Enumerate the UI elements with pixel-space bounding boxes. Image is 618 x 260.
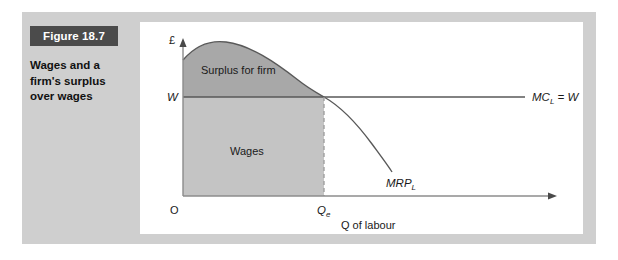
chart-canvas: £ W O Qe Q of labour Surplus for firm Wa…	[140, 22, 583, 234]
y-axis-wage-label: W	[167, 91, 179, 103]
figure-root: Figure 18.7 Wages and a firm's surplus o…	[0, 0, 618, 260]
figure-number-badge: Figure 18.7	[30, 26, 118, 46]
x-axis-equilibrium-label-base: Q	[317, 204, 326, 216]
figure-caption-line-1: Wages and a	[30, 58, 134, 74]
region-surplus-label: Surplus for firm	[201, 64, 276, 76]
x-axis-equilibrium-label: Qe	[317, 204, 331, 219]
y-axis-currency-label: £	[169, 34, 175, 46]
figure-caption: Wages and a firm's surplus over wages	[30, 58, 134, 105]
figure-caption-line-2: firm's surplus	[30, 74, 134, 90]
figure-caption-line-3: over wages	[30, 89, 134, 105]
x-axis-equilibrium-label-subscript: e	[326, 210, 331, 219]
series-mrp-label-base: MRP	[386, 177, 412, 189]
y-axis-arrowhead	[179, 38, 186, 47]
region-wages-label: Wages	[230, 145, 264, 157]
x-axis-caption: Q of labour	[341, 219, 396, 231]
series-mcl-label: MCL = W	[532, 91, 579, 106]
origin-label: O	[170, 204, 179, 216]
series-mrp-label: MRPL	[386, 177, 416, 192]
series-mrp-label-subscript: L	[412, 183, 416, 192]
series-mcl-label-suffix: = W	[554, 91, 579, 103]
x-axis-arrowhead	[548, 192, 557, 199]
series-mcl-label-base: MC	[532, 91, 551, 103]
